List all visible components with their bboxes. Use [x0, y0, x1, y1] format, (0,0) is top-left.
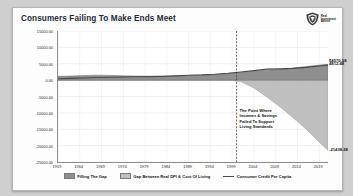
- area-swatch-light: [120, 173, 131, 179]
- y-axis-tick-label: 10000.00: [13, 45, 53, 50]
- x-axis-tick-label: 1969: [96, 164, 105, 169]
- chart-legend: Filling The GapGap Between Real DPI & Co…: [13, 173, 342, 179]
- brand-logo: Real Investment Advice: [306, 12, 336, 26]
- x-axis-tick-label: 1964: [74, 164, 83, 169]
- y-axis-tick-label: -25000.00: [13, 160, 53, 165]
- annotation-line-2: Incomes & Savings: [240, 113, 278, 118]
- y-axis: 15000.0010000.005000.000.00-5000.00-1000…: [13, 8, 57, 168]
- x-axis-tick-label: 1979: [140, 164, 149, 169]
- legend-label: Gap Between Real DPI & Cost Of Living: [133, 174, 210, 179]
- chart-canvas: [58, 31, 328, 162]
- x-axis-tick-label: 1974: [118, 164, 127, 169]
- chart-annotation: The Point Where Incomes & Savings Failed…: [240, 108, 278, 129]
- legend-label: Filling The Gap: [77, 174, 107, 179]
- area-swatch-dark: [64, 173, 75, 179]
- y-axis-tick-label: -20000.00: [13, 143, 53, 148]
- x-axis-tick-label: 1959: [53, 164, 62, 169]
- x-axis-tick-label: 2014: [292, 164, 301, 169]
- line-swatch: [223, 176, 234, 177]
- legend-label: Consumer Credit Per Capita: [237, 174, 292, 179]
- y-axis-tick-label: -5000.00: [13, 94, 53, 99]
- x-axis-tick-label: 2019: [314, 164, 323, 169]
- y-axis-tick-label: -10000.00: [13, 110, 53, 115]
- chart-card: Consumers Failing To Make Ends Meet Real…: [12, 7, 343, 191]
- data-label-gap: -21438.28: [329, 147, 348, 152]
- y-axis-tick-label: 15000.00: [13, 29, 53, 34]
- x-axis-tick-label: 1984: [161, 164, 170, 169]
- y-axis-tick-label: 0.00: [13, 78, 53, 83]
- annotation-line-4: Living Standards: [240, 124, 278, 129]
- data-label-filling-the-gap: 4812.48: [329, 61, 344, 66]
- legend-item[interactable]: Gap Between Real DPI & Cost Of Living: [120, 173, 210, 179]
- legend-item[interactable]: Filling The Gap: [64, 173, 107, 179]
- shield-icon: [306, 12, 319, 26]
- x-axis-tick-label: 2009: [270, 164, 279, 169]
- plot-area: [57, 31, 328, 163]
- x-axis-tick-label: 1999: [227, 164, 236, 169]
- x-axis-tick-label: 2004: [249, 164, 258, 169]
- screenshot-root: Consumers Failing To Make Ends Meet Real…: [0, 0, 353, 196]
- x-axis-tick-label: 1994: [205, 164, 214, 169]
- brand-line-3: Advice: [321, 20, 336, 23]
- y-axis-tick-label: -15000.00: [13, 127, 53, 132]
- brand-wordmark: Real Investment Advice: [321, 15, 336, 23]
- legend-item[interactable]: Consumer Credit Per Capita: [223, 174, 291, 179]
- x-axis-tick-label: 1989: [183, 164, 192, 169]
- y-axis-tick-label: 5000.00: [13, 61, 53, 66]
